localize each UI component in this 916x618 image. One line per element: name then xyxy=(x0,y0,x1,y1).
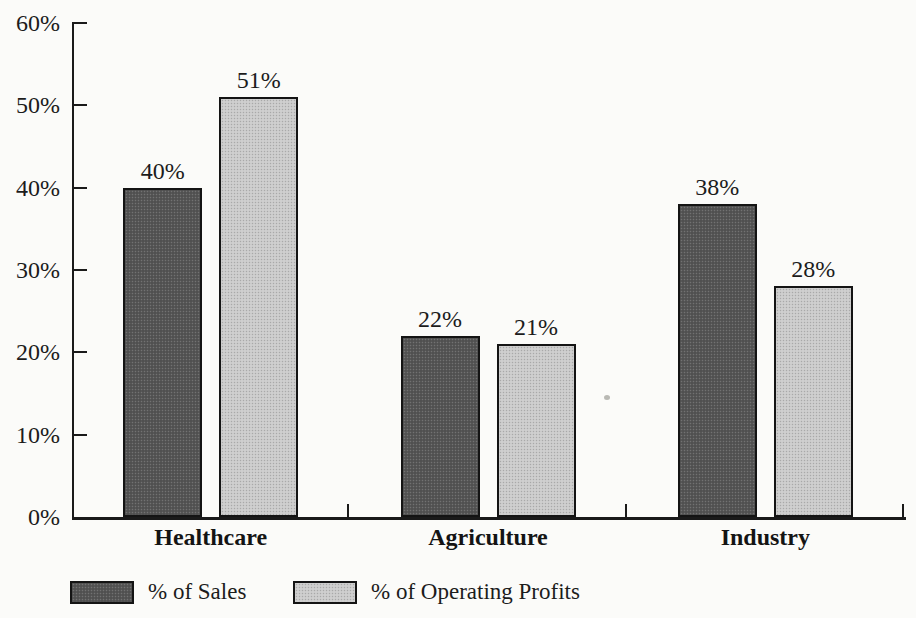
y-axis-label: 30% xyxy=(0,257,60,283)
bar-agriculture-of-sales xyxy=(401,336,480,517)
category-label-healthcare: Healthcare xyxy=(154,523,267,551)
bar-healthcare-of-operating-profits xyxy=(219,97,298,517)
bar-chart: 0%10%20%30%40%50%60%40%51%Healthcare22%2… xyxy=(0,0,916,618)
legend-item-operating-profits: % of Operating Profits xyxy=(293,579,580,605)
legend-label-sales: % of Sales xyxy=(148,579,246,605)
legend-label-operating-profits: % of Operating Profits xyxy=(371,579,580,605)
legend-item-sales: % of Sales xyxy=(70,579,246,605)
legend-swatch-sales xyxy=(70,581,134,604)
bar-value-label-healthcare-of-sales: 40% xyxy=(141,157,185,185)
y-axis-label: 0% xyxy=(0,504,60,530)
y-axis-tick xyxy=(72,22,87,24)
y-axis-tick xyxy=(72,269,87,271)
y-axis-label: 60% xyxy=(0,10,60,36)
category-label-industry: Industry xyxy=(721,523,810,551)
bar-industry-of-operating-profits xyxy=(774,286,853,517)
y-axis-label: 50% xyxy=(0,92,60,118)
x-axis xyxy=(72,517,906,520)
y-axis-label: 20% xyxy=(0,339,60,365)
plot-area: 0%10%20%30%40%50%60%40%51%Healthcare22%2… xyxy=(0,0,916,618)
bar-value-label-agriculture-of-operating-profits: 21% xyxy=(514,313,558,341)
y-axis-tick xyxy=(72,434,87,436)
y-axis-label: 10% xyxy=(0,422,60,448)
bar-value-label-industry-of-sales: 38% xyxy=(695,173,739,201)
y-axis-tick xyxy=(72,104,87,106)
x-axis-tick xyxy=(902,504,904,517)
y-axis-label: 40% xyxy=(0,175,60,201)
bar-value-label-agriculture-of-sales: 22% xyxy=(418,305,462,333)
bar-value-label-industry-of-operating-profits: 28% xyxy=(791,255,835,283)
x-axis-tick xyxy=(625,504,627,517)
y-axis-tick xyxy=(72,351,87,353)
y-axis-tick xyxy=(72,187,87,189)
bar-value-label-healthcare-of-operating-profits: 51% xyxy=(237,66,281,94)
scan-speck xyxy=(604,395,610,400)
bar-healthcare-of-sales xyxy=(123,188,202,517)
bar-agriculture-of-operating-profits xyxy=(497,344,576,517)
category-label-agriculture: Agriculture xyxy=(428,523,548,551)
bar-industry-of-sales xyxy=(678,204,757,517)
y-axis xyxy=(72,23,74,520)
legend-swatch-operating-profits xyxy=(293,581,357,604)
x-axis-tick xyxy=(347,504,349,517)
